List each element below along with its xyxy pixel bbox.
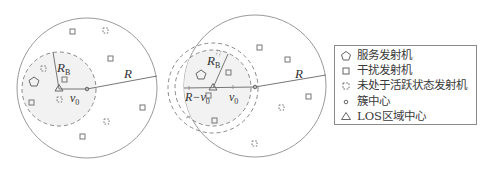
legend-label: LOS区域中心	[357, 109, 426, 124]
dashed-square-icon	[339, 79, 353, 93]
inactive-transmitter-icon	[103, 28, 108, 33]
right-diagram: RB v0 R−v0 R	[168, 15, 326, 157]
legend: 服务发射机 干扰发射机 未处于活跃状态发射机 簇中心 LOS区域中心	[334, 45, 477, 125]
cell-radius-line	[87, 76, 157, 89]
interferer-icon	[306, 94, 311, 99]
inactive-transmitter-icon	[104, 119, 109, 124]
legend-label: 干扰发射机	[357, 63, 412, 78]
legend-item-serving: 服务发射机	[339, 48, 476, 63]
legend-label: 服务发射机	[357, 48, 412, 63]
inactive-transmitter-icon	[252, 141, 257, 146]
inactive-transmitter-icon	[279, 105, 284, 110]
legend-item-inactive: 未处于活跃状态发射机	[339, 78, 476, 93]
legend-item-cluster-center: 簇中心	[339, 94, 476, 109]
small-circle-icon	[339, 94, 353, 108]
legend-label: 未处于活跃状态发射机	[357, 78, 467, 93]
cell-radius-label: R	[294, 66, 303, 81]
triangle-icon	[339, 109, 353, 123]
cell-radius-line	[255, 75, 326, 87]
interferer-icon	[108, 56, 113, 61]
cell-radius-label: R	[123, 66, 132, 81]
interferer-icon	[80, 134, 85, 139]
pentagon-icon	[339, 49, 353, 63]
legend-item-los-center: LOS区域中心	[339, 109, 476, 124]
interferer-icon	[257, 45, 262, 50]
interferer-icon	[285, 57, 290, 62]
legend-label: 簇中心	[357, 94, 390, 109]
legend-item-interferer: 干扰发射机	[339, 63, 476, 78]
interferer-icon	[70, 29, 75, 34]
left-diagram: RB v0 R	[17, 18, 157, 158]
square-icon	[339, 64, 353, 78]
interferer-icon	[140, 105, 145, 110]
